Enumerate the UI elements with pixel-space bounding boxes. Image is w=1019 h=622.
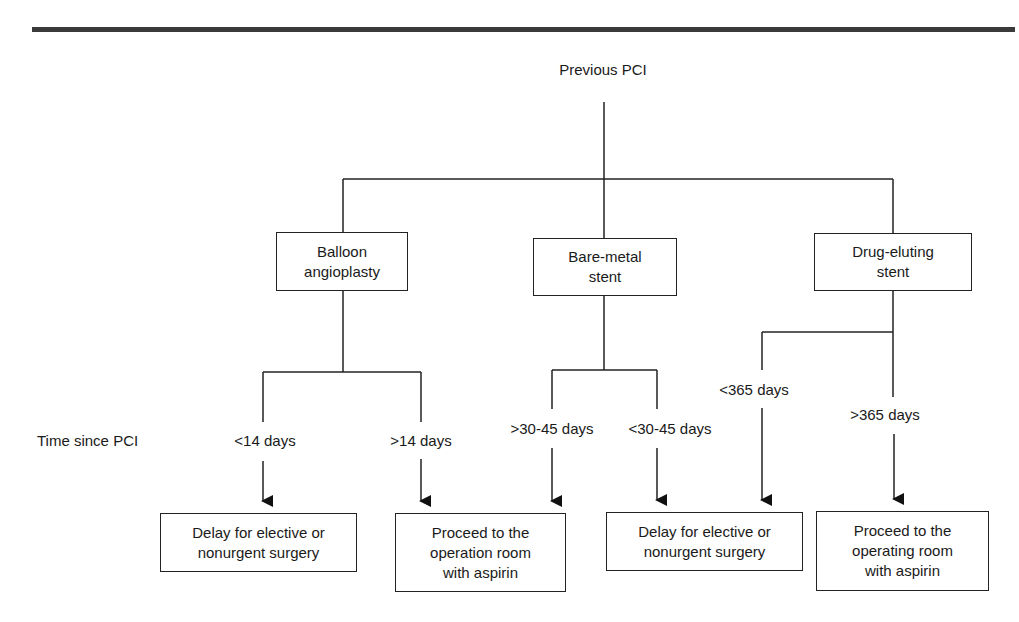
bare-metal-lt-30-45-label: <30-45 days [629,420,712,438]
time-since-pci-label: Time since PCI [37,432,138,450]
outcome-1-line-1: Delay for elective or [192,523,325,543]
outcome-2-line-1: Proceed to the [432,523,530,543]
drug-eluting-lt-365-label: <365 days [719,381,789,399]
bare-metal-gt-30-45-label: >30-45 days [511,420,594,438]
outcome-proceed-aspirin-box-2: Proceed to the operating room with aspir… [816,511,989,591]
outcome-delay-surgery-box-2: Delay for elective or nonurgent surgery [606,512,803,571]
drug-eluting-stent-box: Drug-eluting stent [814,233,972,291]
bare-metal-stent-box: Bare-metal stent [533,238,677,296]
outcome-delay-surgery-box-1: Delay for elective or nonurgent surgery [160,513,357,572]
outcome-4-line-3: with aspirin [865,561,940,581]
root-label: Previous PCI [559,61,647,79]
outcome-1-line-2: nonurgent surgery [198,543,320,563]
balloon-lt-14-label: <14 days [234,432,295,450]
outcome-proceed-aspirin-box-1: Proceed to the operation room with aspir… [395,513,566,592]
bare-metal-line-2: stent [589,267,622,287]
bare-metal-line-1: Bare-metal [568,247,641,267]
drug-eluting-gt-365-label: >365 days [850,406,920,424]
drug-eluting-line-2: stent [877,262,910,282]
outcome-4-line-1: Proceed to the [854,521,952,541]
balloon-line-1: Balloon [317,242,367,262]
balloon-line-2: angioplasty [304,262,380,282]
balloon-angioplasty-box: Balloon angioplasty [276,232,408,291]
balloon-gt-14-label: >14 days [390,432,451,450]
outcome-3-line-2: nonurgent surgery [644,542,766,562]
outcome-2-line-3: with aspirin [443,563,518,583]
outcome-4-line-2: operating room [852,541,953,561]
outcome-3-line-1: Delay for elective or [638,522,771,542]
drug-eluting-line-1: Drug-eluting [852,242,934,262]
outcome-2-line-2: operation room [430,543,531,563]
